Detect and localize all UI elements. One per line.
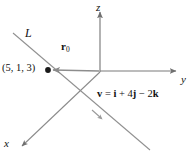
y-axis-label: y bbox=[181, 74, 186, 85]
vector-line-figure: z y x L (5, 1, 3) r0 v = i + 4j − 2k bbox=[0, 0, 195, 162]
v-plus: + bbox=[116, 88, 127, 99]
v-k-unit: k bbox=[153, 88, 159, 99]
position-vector-label: r0 bbox=[61, 41, 70, 53]
direction-arrow-marker bbox=[92, 110, 101, 118]
x-axis-label: x bbox=[4, 138, 9, 149]
figure-canvas bbox=[0, 0, 195, 162]
v-minus: − bbox=[136, 88, 147, 99]
r0-subscript: 0 bbox=[66, 45, 70, 54]
z-axis-label: z bbox=[96, 2, 100, 13]
direction-vector-label: v = i + 4j − 2k bbox=[97, 89, 159, 100]
point-coordinates-label: (5, 1, 3) bbox=[2, 63, 35, 74]
v-equals: = bbox=[102, 88, 113, 99]
x-axis bbox=[22, 72, 100, 146]
line-label-L: L bbox=[25, 27, 32, 39]
position-vector-r0 bbox=[53, 70, 99, 71]
point-marker bbox=[45, 67, 51, 73]
